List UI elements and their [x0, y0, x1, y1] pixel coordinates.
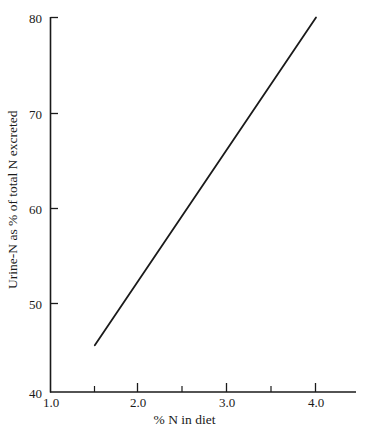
chart-figure: 80 70 60 50 40 1.0 2.0 3.0 4.0 % N in di… [0, 0, 369, 435]
x-tick-label-1-0: 1.0 [43, 396, 59, 409]
y-axis-title-container: Urine-N as % of total N excreted [0, 0, 26, 400]
y-axis-title: Urine-N as % of total N excreted [6, 111, 20, 289]
x-tick-label-4-0: 4.0 [308, 396, 324, 409]
chart-plot-area [0, 0, 369, 435]
x-axis-title: % N in diet [0, 413, 369, 427]
x-tick-label-2-0: 2.0 [130, 396, 146, 409]
data-series-line [95, 18, 316, 346]
x-tick-label-3-0: 3.0 [219, 396, 235, 409]
